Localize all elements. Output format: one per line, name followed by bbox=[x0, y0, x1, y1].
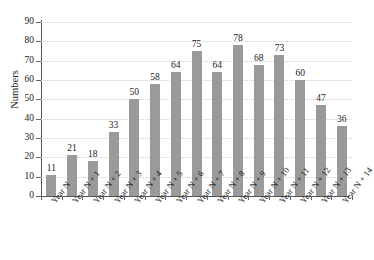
y-axis-tick-label: 40 bbox=[12, 114, 34, 124]
bar-value-label: 47 bbox=[308, 93, 334, 103]
x-axis-tick bbox=[82, 196, 83, 200]
bar-value-label: 75 bbox=[184, 39, 210, 49]
y-axis-tick-label: 50 bbox=[12, 94, 34, 104]
y-axis-tick bbox=[36, 80, 41, 81]
bar-value-label: 18 bbox=[80, 149, 106, 159]
y-axis-tick-label: 0 bbox=[12, 191, 34, 201]
y-axis-tick-label: 30 bbox=[12, 133, 34, 143]
x-axis-tick bbox=[331, 196, 332, 200]
bar-value-label: 60 bbox=[287, 68, 313, 78]
x-axis-tick bbox=[228, 196, 229, 200]
y-axis-tick bbox=[36, 99, 41, 100]
bar-value-label: 64 bbox=[204, 60, 230, 70]
x-axis-tick bbox=[290, 196, 291, 200]
bar-value-label: 50 bbox=[121, 87, 147, 97]
y-axis-tick bbox=[36, 22, 41, 23]
x-axis-tick bbox=[207, 196, 208, 200]
y-axis-title: Numbers bbox=[9, 60, 20, 120]
y-axis-tick-label: 20 bbox=[12, 152, 34, 162]
y-axis-tick-label: 80 bbox=[12, 36, 34, 46]
y-axis-tick bbox=[36, 119, 41, 120]
bar-value-label: 78 bbox=[225, 33, 251, 43]
bar-value-label: 36 bbox=[329, 114, 355, 124]
x-axis-tick bbox=[186, 196, 187, 200]
x-axis-tick bbox=[145, 196, 146, 200]
x-axis-tick bbox=[165, 196, 166, 200]
y-axis-tick bbox=[36, 138, 41, 139]
gridline bbox=[41, 22, 352, 23]
bar-value-label: 33 bbox=[101, 120, 127, 130]
y-axis-tick-label: 10 bbox=[12, 172, 34, 182]
y-axis-tick bbox=[36, 177, 41, 178]
y-axis-tick-label: 70 bbox=[12, 56, 34, 66]
x-axis-tick bbox=[352, 196, 353, 200]
y-axis-tick bbox=[36, 157, 41, 158]
y-axis-tick bbox=[36, 61, 41, 62]
x-axis-tick bbox=[311, 196, 312, 200]
bar-value-label: 11 bbox=[38, 163, 64, 173]
y-axis-tick-label: 60 bbox=[12, 75, 34, 85]
x-axis-tick bbox=[124, 196, 125, 200]
y-axis-tick-label: 90 bbox=[12, 17, 34, 27]
x-axis-tick bbox=[103, 196, 104, 200]
y-axis-tick bbox=[36, 41, 41, 42]
bar-value-label: 73 bbox=[266, 43, 292, 53]
x-axis-tick bbox=[248, 196, 249, 200]
x-axis-tick bbox=[269, 196, 270, 200]
chart-title bbox=[110, 0, 250, 8]
bar-value-label: 64 bbox=[163, 60, 189, 70]
x-axis-tick bbox=[41, 196, 42, 200]
x-axis-tick bbox=[62, 196, 63, 200]
bar-value-label: 58 bbox=[142, 72, 168, 82]
bar-value-label: 68 bbox=[246, 53, 272, 63]
